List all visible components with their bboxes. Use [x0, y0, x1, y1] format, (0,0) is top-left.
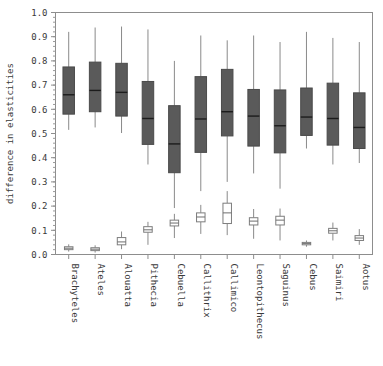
boxplot-lower-open-cebus [302, 240, 311, 246]
box-body [354, 93, 366, 149]
y-axis-tick-label: 0.8 [31, 56, 47, 66]
y-axis-title: difference in elasticities [5, 63, 15, 204]
x-axis-category-label: Saimiri [334, 264, 344, 302]
y-axis-tick-label: 0.7 [31, 80, 47, 90]
x-axis-category-label: Brachyteles [70, 264, 80, 324]
box-body [248, 89, 260, 146]
y-axis-tick-label: 0.1 [31, 226, 47, 236]
x-axis-category-label: Alouatta [123, 264, 133, 307]
boxplot-lower-open-callimico [223, 191, 232, 235]
boxplot-upper-filled-ateles [89, 28, 101, 128]
box-body [301, 88, 313, 135]
x-axis-category-label: Aotus [361, 264, 371, 291]
boxplot-upper-filled-pithecia [142, 29, 154, 164]
x-axis-category-label: Leontopithecus [255, 264, 265, 340]
box-body [327, 83, 339, 145]
plot-frame [56, 13, 373, 255]
boxplot-lower-open-pithecia [144, 222, 153, 245]
x-axis-category-label: Pithecia [149, 264, 159, 307]
boxplot-upper-filled-cebus [301, 32, 313, 149]
boxplot-upper-filled-callithrix [195, 35, 207, 191]
boxplot-lower-open-alouatta [117, 232, 126, 250]
box-body [221, 69, 233, 136]
boxplot-upper-filled-aotus [354, 42, 366, 163]
boxplot-upper-filled-leontopithecus [248, 35, 260, 173]
y-axis-tick-label: 0.0 [31, 250, 47, 260]
x-axis-category-label: Cebuella [176, 264, 186, 307]
y-axis-tick-label: 0.9 [31, 32, 47, 42]
chart-figure: 0.00.10.20.30.40.50.60.70.80.91.0differe… [0, 0, 383, 366]
x-axis-category-label: Callimico [229, 264, 239, 313]
y-axis-tick-label: 1.0 [31, 8, 47, 18]
y-axis-tick-label: 0.4 [31, 153, 47, 163]
boxplot-lower-open-saimiri [329, 223, 338, 241]
box-body [63, 67, 74, 114]
x-axis-category-label: Ateles [96, 264, 106, 297]
y-axis-tick-label: 0.2 [31, 201, 47, 211]
boxplot-upper-filled-callimico [221, 40, 233, 182]
boxplot-lower-open-ateles [91, 245, 100, 252]
boxplot-lower-open-cebuella [170, 214, 179, 238]
x-axis-category-label: Callithrix [202, 264, 212, 319]
boxplot-lower-open-brachyteles [64, 244, 73, 251]
y-axis-tick-label: 0.6 [31, 105, 47, 115]
x-axis-category-label: Saguinus [281, 264, 291, 307]
boxplot-upper-filled-saguinus [274, 42, 286, 189]
boxplot-upper-filled-brachyteles [63, 32, 75, 130]
boxplot-lower-open-saguinus [276, 209, 285, 241]
box-body [142, 81, 154, 144]
boxplot-lower-open-aotus [355, 229, 364, 245]
y-axis-tick-label: 0.3 [31, 177, 47, 187]
boxplot-upper-filled-cebuella [169, 61, 181, 208]
box-body [195, 77, 207, 153]
boxplot-lower-open-callithrix [197, 205, 206, 234]
x-axis-category-label: Cebus [308, 264, 318, 291]
boxplot-upper-filled-alouatta [116, 27, 128, 133]
boxplot-upper-filled-saimiri [327, 38, 339, 165]
box-body [169, 106, 181, 173]
box-body [117, 238, 126, 245]
box-body [116, 63, 128, 116]
boxplot-lower-open-leontopithecus [249, 209, 258, 239]
y-axis-tick-label: 0.5 [31, 129, 47, 139]
box-body [274, 90, 286, 153]
box-body [89, 62, 101, 112]
boxplot-chart: 0.00.10.20.30.40.50.60.70.80.91.0differe… [0, 0, 383, 366]
